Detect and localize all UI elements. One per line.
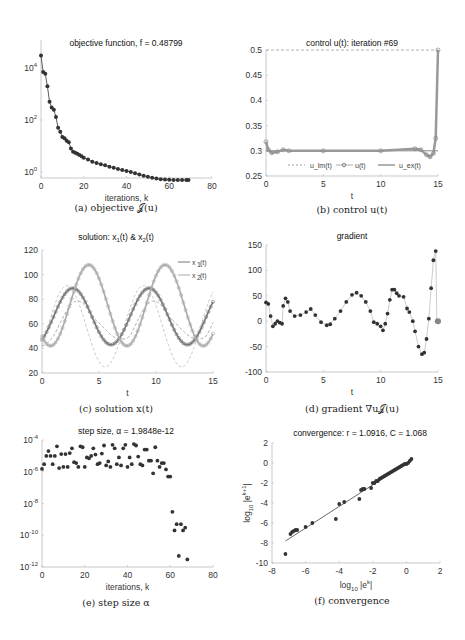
y-tick-label: 10-6 [23,466,38,477]
y-tick-label: 104 [24,62,37,73]
chart-title: gradient [337,231,368,241]
y-tick-label: 10-4 [23,434,38,445]
y-tick-label: 0.25 [245,171,262,181]
y-tick-label: 50 [253,291,263,301]
x-tick-label: 0 [40,376,45,386]
x-tick-label: 10 [376,375,386,385]
chart-panel-f: -8-6-4-202-10-8-6-4-202log10 |ek|log10 |… [241,428,443,606]
y-axis-label: log10 |ek+1| [241,483,254,522]
x-tick-label: 5 [321,375,326,385]
x-tick-label: 20 [80,570,90,580]
y-tick-label: 2 [263,438,268,448]
y-tick-label: 80 [29,294,39,304]
y-tick-label: -10 [256,558,269,568]
y-tick-label: 10-8 [23,498,38,509]
y-tick-label: 0.5 [250,45,262,55]
chart-panel-a: 020406080100102104iterations, kobjective… [24,38,217,213]
chart-panel-d: 051015-100-50050100150tgradient(d) gradi… [245,231,443,414]
chart-title: objective function, f = 0.48799 [69,38,182,48]
legend: x1(t)x2(t) [178,259,207,281]
svg-text:(t): (t) [200,259,207,267]
y-tick-label: -2 [260,478,268,488]
y-tick-label: 0.3 [250,146,262,156]
x-tick-label: -4 [335,566,343,576]
x-axis-label: log10 |ek| [340,579,373,592]
x-tick-label: -6 [302,566,310,576]
figure-caption: (e) step size α [82,597,150,608]
y-tick-label: 0 [263,458,268,468]
x-tick-label: 2 [438,566,443,576]
x-tick-label: 0 [39,181,44,191]
y-tick-label: 0.4 [250,95,262,105]
x-tick-label: -8 [268,566,276,576]
y-tick-label: 120 [24,245,38,255]
x-tick-label: 5 [321,179,326,189]
y-tick-label: -100 [245,367,262,377]
chart-panel-b: 0510150.250.30.350.40.450.5tu_lm(t)u(t)u… [245,38,443,215]
x-axis-label: iterations, k [106,582,150,592]
chart-title: control u(t): iteration #69 [306,38,398,48]
figure-caption: (a) objective 𝒥(u) [74,202,157,213]
x-tick-label: -2 [369,566,377,576]
svg-text:u_lm(t): u_lm(t) [310,162,332,170]
svg-text:u_ex(t): u_ex(t) [399,162,421,170]
x-tick-label: 10 [376,179,386,189]
x-tick-label: 10 [151,376,161,386]
y-tick-label: 100 [24,166,37,177]
figure-caption: (c) solution x(t) [79,403,153,414]
x-tick-label: 80 [208,570,218,580]
svg-text:u(t): u(t) [355,162,366,170]
y-tick-label: -6 [260,518,268,528]
svg-text:x: x [192,272,196,279]
y-tick-label: 60 [29,319,39,329]
chart-title: step size, α = 1.9848e-12 [78,426,174,436]
y-tick-label: -4 [260,498,268,508]
x-tick-label: 40 [123,570,133,580]
chart-panel-e: 02040608010-1210-1010-810-610-4iteration… [20,426,218,608]
y-tick-label: 20 [29,368,39,378]
x-tick-label: 0 [40,570,45,580]
svg-text:x: x [192,259,196,266]
x-tick-label: 0 [264,179,269,189]
x-tick-label: 0 [264,375,269,385]
x-tick-label: 0 [404,566,409,576]
x-tick-label: 15 [433,375,443,385]
y-tick-label: 150 [248,240,262,250]
x-axis-label: t [351,387,354,397]
y-tick-label: 10-10 [20,529,39,540]
y-tick-label: 0 [257,316,262,326]
y-tick-label: -50 [250,342,263,352]
x-tick-label: 60 [166,570,176,580]
x-tick-label: 40 [122,181,132,191]
chart-panel-c: 05101520406080100120tx1(t)x2(t)solution:… [24,232,218,414]
figure: 020406080100102104iterations, kobjective… [0,0,465,640]
figure-caption: (d) gradient ∇u𝒥(u) [305,403,399,414]
x-axis-label: t [351,191,354,201]
chart-title: convergence: r = 1.0916, C = 1.068 [293,428,427,438]
x-tick-label: 60 [165,181,175,191]
y-tick-label: -8 [260,538,268,548]
y-tick-label: 100 [24,270,38,280]
legend: u_lm(t)u(t)u_ex(t) [288,162,421,170]
x-tick-label: 15 [208,376,218,386]
y-tick-label: 0.45 [245,70,262,80]
y-tick-label: 10-12 [20,561,39,572]
figure-caption: (b) control u(t) [316,204,387,215]
figure-caption: (f) convergence [314,595,390,606]
x-tick-label: 15 [433,179,443,189]
y-tick-label: 0.35 [245,121,262,131]
svg-text:(t): (t) [200,272,207,280]
x-tick-label: 5 [97,376,102,386]
y-tick-label: 40 [29,343,39,353]
x-tick-label: 20 [79,181,89,191]
x-axis-label: t [126,388,129,398]
chart-title: solution: x1(t) & x2(t) [78,232,154,243]
y-tick-label: 100 [248,265,262,275]
x-tick-label: 80 [207,181,217,191]
y-tick-label: 102 [24,114,37,125]
